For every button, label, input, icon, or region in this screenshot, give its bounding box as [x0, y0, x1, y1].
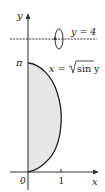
- x-axis-label: x: [92, 176, 98, 187]
- curve-equation-lhs-text: x =: [49, 63, 65, 74]
- y-axis-arrow-icon: [26, 13, 31, 19]
- pi-label: π: [15, 57, 23, 68]
- y-axis-label: y: [16, 10, 23, 21]
- origin-label: 0: [20, 176, 26, 186]
- rotation-axis-label: y = 4: [70, 26, 96, 37]
- shaded-region: [28, 63, 61, 172]
- rotation-axis-label-text: y = 4: [70, 26, 96, 37]
- x-axis-arrow-icon: [93, 170, 99, 175]
- x-tick-label: 1: [59, 176, 65, 186]
- curve-equation-lhs: x =: [49, 63, 65, 74]
- curve-equation-rhs: sin y: [77, 63, 100, 74]
- solid-of-revolution-diagram: y x 0 1 π y = 4 x = sin y: [0, 0, 105, 192]
- rotation-arrowhead-icon: [54, 36, 57, 40]
